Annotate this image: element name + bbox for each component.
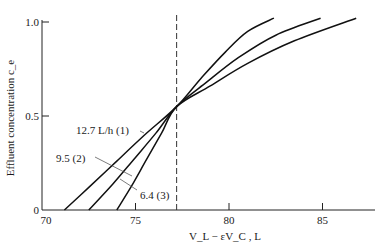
curves bbox=[64, 18, 356, 210]
y-tick-label: 1.0 bbox=[25, 16, 39, 28]
y-tick-label: 0 bbox=[34, 204, 40, 216]
x-tick-label: 75 bbox=[130, 214, 142, 226]
y-tick-label: 0.5 bbox=[25, 110, 39, 122]
leader-line-2 bbox=[95, 157, 132, 176]
y-axis-title: Effluent concentration c_e bbox=[4, 60, 16, 177]
curve-3 bbox=[117, 18, 356, 210]
curve-label-1: 12.7 L/h (1) bbox=[76, 124, 129, 137]
curve-label-3: 6.4 (3) bbox=[140, 189, 170, 202]
x-tick-label: 85 bbox=[317, 214, 329, 226]
x-tick-label: 70 bbox=[41, 214, 53, 226]
breakthrough-curve-chart: 7075808500.51.0 12.7 L/h (1)9.5 (2)6.4 (… bbox=[0, 0, 387, 248]
axes: 7075808500.51.0 bbox=[25, 16, 375, 226]
curve-label-2: 9.5 (2) bbox=[56, 152, 86, 165]
curve-labels: 12.7 L/h (1)9.5 (2)6.4 (3) bbox=[56, 124, 170, 202]
x-tick-label: 80 bbox=[224, 214, 236, 226]
leader-line-1 bbox=[140, 131, 144, 133]
x-axis-title: V_L − εV_C , L bbox=[189, 230, 261, 242]
